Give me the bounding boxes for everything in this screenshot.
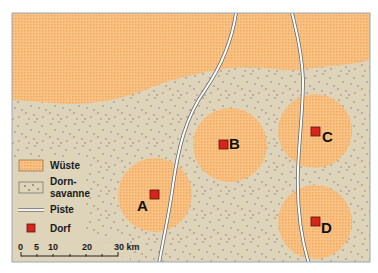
village-marker-icon	[219, 140, 228, 149]
legend-label-savanna-line2: savanne	[50, 188, 90, 199]
scale-tick-5: 5	[34, 242, 39, 252]
savanna-swatch-icon	[19, 182, 43, 193]
legend-label-desert: Wüste	[50, 160, 80, 171]
scale-panel	[12, 236, 130, 262]
legend-item-desert: Wüste	[19, 160, 80, 171]
legend-label-road: Piste	[50, 204, 74, 215]
village-marker-icon	[311, 127, 320, 136]
desert-swatch-icon	[19, 160, 43, 171]
village-label-b: B	[229, 135, 240, 152]
village-label-c: C	[322, 128, 333, 145]
scale-tick-30: 30 km	[114, 242, 140, 252]
legend-label-village: Dorf	[50, 223, 71, 234]
scale-tick-10: 10	[48, 242, 58, 252]
village-label-d: D	[321, 219, 332, 236]
scale-tick-0: 0	[18, 242, 23, 252]
village-marker-icon	[150, 190, 159, 199]
map: A B C D Wüste Dorn- savanne Piste	[0, 0, 378, 273]
legend-label-savanna-line1: Dorn-	[50, 176, 77, 187]
village-label-a: A	[137, 197, 148, 214]
scale-tick-20: 20	[82, 242, 92, 252]
village-swatch-icon	[27, 224, 35, 232]
village-marker-icon	[311, 217, 320, 226]
legend-item-village: Dorf	[27, 223, 71, 234]
